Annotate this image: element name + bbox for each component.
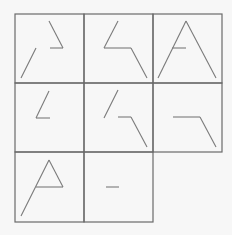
line-segment xyxy=(104,21,118,48)
figure-2 xyxy=(104,21,147,78)
line-segment xyxy=(21,48,36,78)
line-segment xyxy=(49,21,63,48)
line-segment xyxy=(104,90,118,118)
figure-5 xyxy=(104,90,147,147)
line-segment xyxy=(21,160,49,216)
line-segment xyxy=(36,91,49,118)
line-figures xyxy=(21,21,216,216)
figure-4 xyxy=(36,91,50,118)
puzzle-grid xyxy=(0,0,232,235)
grid-cell-r0-c0 xyxy=(15,14,84,83)
line-segment xyxy=(158,21,186,78)
line-segment xyxy=(131,117,147,147)
figure-3 xyxy=(158,21,216,78)
figure-7 xyxy=(21,160,63,216)
line-segment xyxy=(131,48,147,78)
figure-6 xyxy=(173,117,216,147)
line-segment xyxy=(49,160,63,187)
line-segment xyxy=(186,21,216,78)
figure-1 xyxy=(21,21,63,78)
line-segment xyxy=(200,117,216,147)
